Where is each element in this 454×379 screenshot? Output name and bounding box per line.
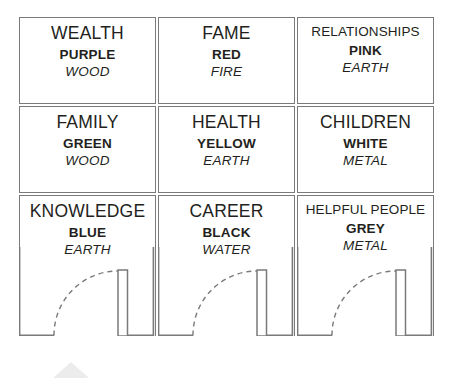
bagua-cell: KNOWLEDGEBLUEEARTH: [19, 195, 156, 336]
bagua-cell-text: FAMEREDFIRE: [159, 25, 294, 79]
door-swing-arc: [54, 271, 118, 335]
bagua-cell-text: FAMILYGREENWOOD: [20, 114, 155, 168]
bagua-cell: CAREERBLACKWATER: [158, 195, 295, 336]
bagua-cell: HELPFUL PEOPLEGREYMETAL: [297, 195, 434, 336]
door-swing-diagram: [19, 247, 155, 336]
bagua-color-label: PURPLE: [20, 48, 155, 62]
bagua-cell: WEALTHPURPLEWOOD: [19, 17, 156, 104]
bagua-color-label: YELLOW: [159, 137, 294, 151]
bagua-area-label: FAMILY: [20, 114, 155, 132]
bagua-cell: FAMILYGREENWOOD: [19, 106, 156, 193]
bagua-area-label: KNOWLEDGE: [20, 203, 155, 221]
bagua-element-label: FIRE: [159, 65, 294, 79]
wall-stub-right: [128, 247, 153, 335]
bagua-cell-text: RELATIONSHIPSPINKEARTH: [298, 25, 433, 75]
bagua-area-label: HELPFUL PEOPLE: [298, 203, 433, 217]
bagua-grid: WEALTHPURPLEWOODFAMEREDFIRERELATIONSHIPS…: [19, 17, 434, 356]
door-swing-diagram: [297, 247, 433, 336]
wall-stub-left: [298, 247, 332, 335]
wall-stub-right: [267, 247, 292, 335]
door-swing-arc: [193, 271, 257, 335]
bagua-color-label: BLACK: [159, 226, 294, 240]
bagua-area-label: FAME: [159, 25, 294, 43]
bagua-area-label: WEALTH: [20, 25, 155, 43]
bagua-element-label: WOOD: [20, 65, 155, 79]
bagua-element-label: WOOD: [20, 154, 155, 168]
bagua-area-label: RELATIONSHIPS: [298, 25, 433, 39]
bagua-cell: CHILDRENWHITEMETAL: [297, 106, 434, 193]
bagua-area-label: HEALTH: [159, 114, 294, 132]
bagua-color-label: BLUE: [20, 226, 155, 240]
bagua-element-label: METAL: [298, 154, 433, 168]
bagua-cell: HEALTHYELLOWEARTH: [158, 106, 295, 193]
bagua-color-label: GREEN: [20, 137, 155, 151]
bagua-element-label: EARTH: [159, 154, 294, 168]
bagua-map: WEALTHPURPLEWOODFAMEREDFIRERELATIONSHIPS…: [0, 0, 454, 379]
wall-stub-left: [20, 247, 54, 335]
bagua-area-label: CAREER: [159, 203, 294, 221]
bagua-area-label: CHILDREN: [298, 114, 433, 132]
bagua-color-label: RED: [159, 48, 294, 62]
bagua-color-label: PINK: [298, 44, 433, 58]
wall-stub-right: [406, 247, 431, 335]
bagua-cell-text: HELPFUL PEOPLEGREYMETAL: [298, 203, 433, 253]
door-leaf: [396, 270, 406, 336]
bagua-cell-text: HEALTHYELLOWEARTH: [159, 114, 294, 168]
wall-stub-left: [159, 247, 193, 335]
watermark-chevron-icon: [52, 360, 90, 379]
bagua-cell-text: CHILDRENWHITEMETAL: [298, 114, 433, 168]
door-swing-arc: [332, 271, 396, 335]
bagua-color-label: GREY: [298, 222, 433, 236]
door-swing-diagram: [158, 247, 294, 336]
bagua-cell: RELATIONSHIPSPINKEARTH: [297, 17, 434, 104]
bagua-color-label: WHITE: [298, 137, 433, 151]
bagua-cell-text: WEALTHPURPLEWOOD: [20, 25, 155, 79]
door-leaf: [118, 270, 128, 336]
door-leaf: [257, 270, 267, 336]
bagua-element-label: EARTH: [298, 61, 433, 75]
bagua-cell: FAMEREDFIRE: [158, 17, 295, 104]
